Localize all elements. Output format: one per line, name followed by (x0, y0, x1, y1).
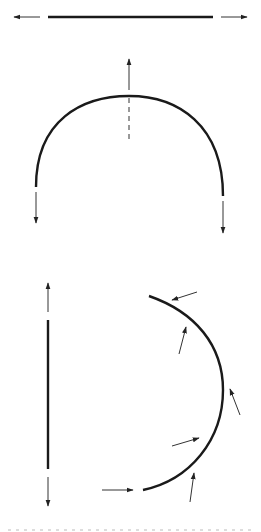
force-arrow-icon (190, 473, 194, 502)
figure-curved-arc-forces (102, 292, 240, 502)
diagram-canvas (0, 0, 261, 532)
d-arc-curve (143, 296, 223, 490)
force-arrow-icon (172, 292, 197, 300)
force-arrow-icon (230, 389, 240, 415)
force-arrow-icon (172, 438, 199, 446)
figure-semicircular-arch (36, 59, 223, 233)
force-arrow-icon (179, 327, 186, 354)
